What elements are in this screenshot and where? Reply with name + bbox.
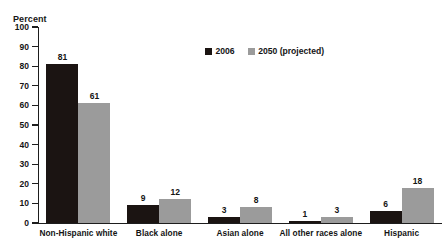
bar-1-0 [127,205,159,223]
y-tick-mark [32,26,38,27]
bar-value-label: 3 [315,206,359,215]
clipped-header-text [0,0,444,3]
bar-1-1 [159,199,191,223]
y-tick-label: 30 [0,160,29,169]
y-tick-label: 100 [0,23,29,32]
bar-value-label: 81 [40,53,84,62]
y-tick-mark [32,124,38,125]
y-tick-label: 90 [0,42,29,51]
bar-2-0 [208,217,240,223]
legend-item-1[interactable]: 2050 (projected) [248,46,324,56]
y-tick-mark [32,46,38,47]
y-tick-label: 10 [0,199,29,208]
bar-4-1 [402,188,434,223]
legend-swatch-icon [248,48,255,55]
bar-2-1 [240,207,272,223]
y-tick-mark [32,222,38,223]
bar-0-0 [46,64,78,223]
bar-4-0 [370,211,402,223]
bar-3-0 [289,221,321,223]
bar-value-label: 61 [72,92,116,101]
legend-item-0[interactable]: 2006 [205,46,235,56]
y-tick-mark [32,183,38,184]
bar-0-1 [78,103,110,223]
y-tick-label: 50 [0,121,29,130]
y-tick-label: 0 [0,219,29,228]
y-tick-label: 60 [0,101,29,110]
y-tick-label: 80 [0,62,29,71]
y-tick-mark [32,144,38,145]
category-label-4: Hispanic [349,228,444,238]
y-tick-mark [32,66,38,67]
bar-3-1 [321,217,353,223]
legend-label: 2006 [216,46,235,56]
y-tick-mark [32,164,38,165]
y-tick-mark [32,203,38,204]
bar-value-label: 12 [153,188,197,197]
y-tick-label: 70 [0,81,29,90]
y-tick-mark [32,85,38,86]
bar-chart: Percent 1009080706050403020100 816191238… [0,0,444,245]
y-tick-mark [32,105,38,106]
y-tick-label: 20 [0,179,29,188]
bar-value-label: 18 [396,177,440,186]
chart-legend: 20062050 (projected) [205,46,324,56]
legend-swatch-icon [205,48,212,55]
legend-label: 2050 (projected) [258,46,324,56]
y-tick-label: 40 [0,140,29,149]
bar-value-label: 8 [234,196,278,205]
